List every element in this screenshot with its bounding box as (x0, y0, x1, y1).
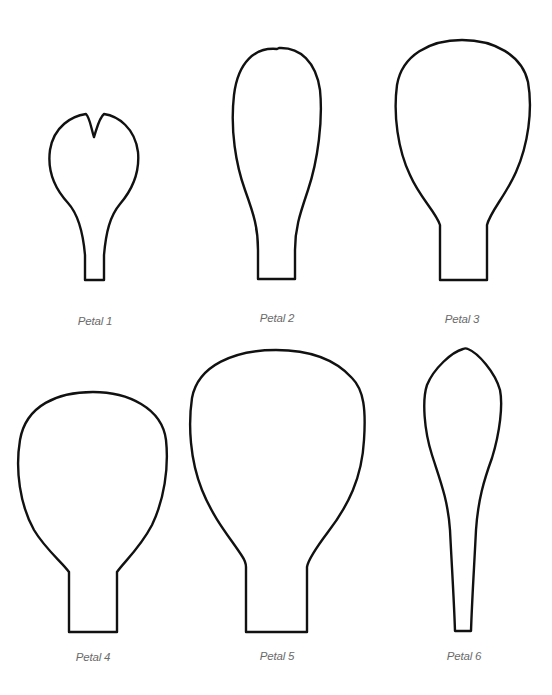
petal-2-label: Petal 2 (260, 312, 294, 324)
petal-1-label: Petal 1 (78, 315, 112, 327)
petal-4-label: Petal 4 (76, 651, 110, 663)
petal-6-label: Petal 6 (447, 650, 481, 662)
petal-2-shape (233, 48, 321, 279)
petal-template-sheet (0, 0, 552, 695)
petal-3-shape (396, 40, 530, 280)
petal-5-shape (190, 350, 365, 632)
petal-1-shape (49, 114, 138, 280)
petal-3-label: Petal 3 (445, 313, 479, 325)
petal-6-shape (424, 348, 501, 631)
petal-4-shape (18, 392, 167, 632)
petal-5-label: Petal 5 (260, 650, 294, 662)
